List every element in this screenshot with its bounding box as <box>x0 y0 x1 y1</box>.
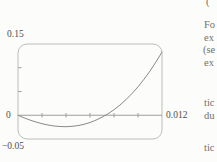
y-ticks <box>18 68 22 92</box>
text-fragment: Fo <box>204 19 215 31</box>
calculator-viewing-window-figure: 0.15 0 0.012 −0.05 <box>0 0 217 162</box>
text-fragment: ex <box>204 57 214 69</box>
text-fragment: (se <box>203 44 215 56</box>
plot-svg <box>0 0 217 162</box>
y-min-tick-label: −0.05 <box>2 141 24 152</box>
text-fragment: tic <box>204 97 215 109</box>
text-fragment: du <box>204 110 215 122</box>
textbook-page-crop: 0.15 0 0.012 −0.05 ( Fo ex (se ex tic du… <box>0 0 217 162</box>
y-max-tick-label: 0.15 <box>7 29 24 40</box>
origin-tick-label: 0 <box>6 110 11 121</box>
text-fragment: ex <box>204 32 214 44</box>
x-max-tick-label: 0.012 <box>166 110 187 121</box>
text-fragment: tic <box>204 142 215 154</box>
plot-frame <box>18 44 162 139</box>
text-fragment: ( <box>206 0 210 8</box>
